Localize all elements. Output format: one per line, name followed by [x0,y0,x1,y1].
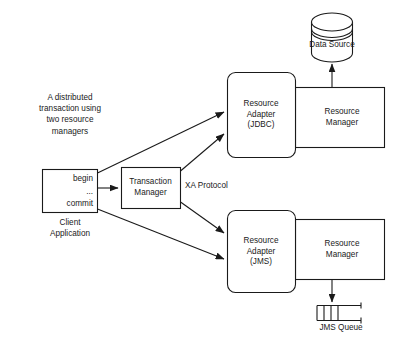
edge-tm-to-jms-adapter [181,202,225,233]
client-application-caption: Client Application [22,218,118,239]
diagram-caption: A distributed transaction using two reso… [14,92,126,137]
resource-adapter-jms-node[interactable] [227,210,296,293]
jms-queue-node[interactable] [317,302,362,323]
data-source-node[interactable] [311,13,353,62]
resource-manager-top-node[interactable] [296,87,385,148]
resource-manager-bottom-node[interactable] [296,219,385,280]
resource-adapter-jdbc-node[interactable] [227,72,296,158]
jms-queue-caption: JMS Queue [305,323,377,334]
client-application-node[interactable] [42,169,98,213]
edge-tm-to-jdbc-adapter [181,134,225,171]
diagram-canvas: A distributed transaction using two reso… [0,0,407,353]
transaction-manager-node[interactable] [121,167,181,209]
xa-protocol-label: XA Protocol [185,180,247,191]
